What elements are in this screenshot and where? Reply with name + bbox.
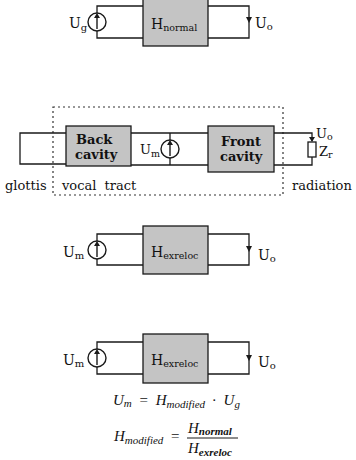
current-source-icon — [161, 140, 179, 158]
source-label: Um — [63, 352, 85, 369]
output-label: Uo — [258, 354, 276, 371]
vocal-tract-label: vocal tract — [61, 178, 137, 193]
glottis-wire — [20, 133, 66, 164]
radiation-label: radiation — [292, 178, 352, 193]
back-cavity-label-2: cavity — [75, 147, 118, 162]
svg-text:Hmodified =: Hmodified = — [113, 428, 180, 447]
diagram-exreloc-1: Um Hexreloc Uo — [63, 226, 276, 274]
vocal-tract-diagram-figure: Ug Hnormal Uo Back cavity Um Front cavit… — [0, 0, 356, 460]
source-label: Um — [140, 142, 160, 159]
output-arrow-icon — [246, 17, 252, 23]
right-wire — [208, 234, 249, 265]
back-cavity-label-1: Back — [76, 132, 113, 147]
svg-text:Um = Hmodified: Um = Hmodified · Ug — [113, 392, 240, 411]
fraction-denominator: Hexreloc — [187, 440, 232, 458]
impedance-resistor-icon — [308, 142, 316, 157]
right-wire — [208, 6, 249, 38]
source-label: Um — [63, 244, 85, 261]
front-cavity-label-1: Front — [221, 134, 261, 149]
impedance-label: Zr — [319, 144, 333, 160]
output-arrow-icon — [246, 246, 252, 252]
output-label: Uo — [255, 15, 273, 32]
right-wire — [208, 342, 249, 374]
diagram-exreloc-2: Um Hexreloc Uo — [63, 334, 276, 383]
output-label: Uo — [316, 126, 333, 142]
source-label: Ug — [69, 15, 88, 33]
output-label: Uo — [258, 247, 276, 264]
fraction-numerator: Hnormal — [187, 420, 233, 437]
glottis-label: glottis — [5, 178, 47, 193]
equation-um: Um = Hmodified · Ug — [113, 392, 240, 411]
front-cavity-label-2: cavity — [220, 149, 263, 164]
diagram-vocal-tract: Back cavity Um Front cavity Uo Zr glotti… — [5, 107, 352, 195]
diagram-normal: Ug Hnormal Uo — [69, 0, 273, 46]
current-source-icon — [88, 13, 106, 31]
current-source-icon — [88, 349, 106, 367]
current-source-icon — [88, 241, 106, 259]
equation-h-modified: Hmodified = Hnormal Hexreloc — [113, 420, 238, 458]
output-arrow-icon — [309, 137, 315, 142]
output-arrow-icon — [246, 355, 252, 361]
